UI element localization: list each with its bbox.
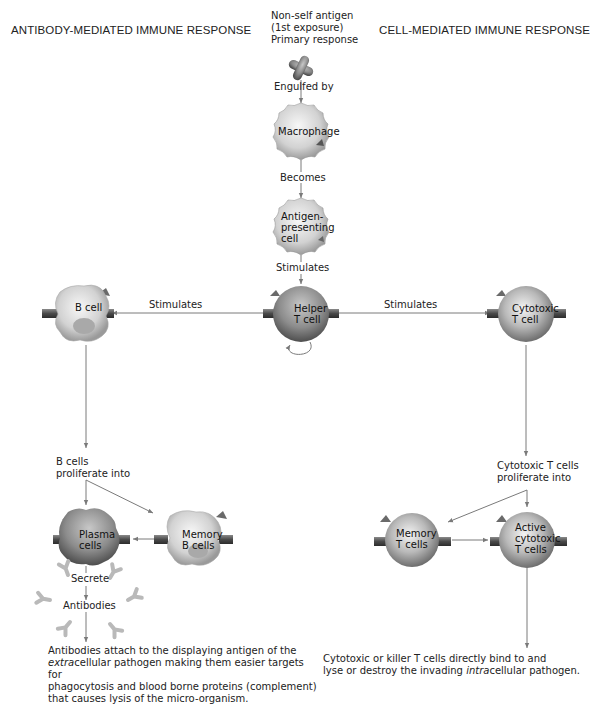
memory-t-label-line1: Memory [396, 528, 437, 539]
b-cell-icon [42, 285, 114, 341]
antibodies-label: Antibodies [63, 600, 116, 612]
cell-mediated-heading: CELL-MEDIATED IMMUNE RESPONSE [379, 24, 590, 36]
becomes-label: Becomes [280, 172, 326, 184]
t-proliferate-line1: Cytotoxic T cells [497, 460, 579, 472]
antigen-label-line2: (1st exposure) [271, 22, 358, 34]
stimulates-top-label: Stimulates [276, 262, 329, 274]
t-proliferate-line2: proliferate into [497, 472, 579, 484]
extra-italic: extra [48, 657, 74, 668]
stimulates-left-label: Stimulates [149, 299, 202, 311]
cell-outcome-line2: lyse or destroy the invading intracellul… [323, 665, 601, 677]
antigen-label-line3: Primary response [271, 34, 358, 46]
apc-label-line3: cell [281, 233, 334, 244]
active-label-line1: Active [515, 522, 560, 533]
engulfed-by-label: Engulfed by [274, 81, 334, 93]
plasma-cells-label: Plasma cells [79, 529, 115, 551]
t-cells-proliferate-label: Cytotoxic T cells proliferate into [497, 460, 579, 484]
antibody-outcome-line3: phagocytosis and blood borne proteins (c… [48, 681, 318, 693]
active-cytotoxic-t-cells-label: Active cytotoxic T cells [515, 522, 560, 555]
cytotoxic-label-line2: T cell [512, 314, 559, 325]
cell-outcome-line2-rest: cellular pathogen. [489, 665, 580, 676]
helper-label-line2: T cell [294, 314, 327, 325]
b-cells-proliferate-label: B cells proliferate into [56, 456, 130, 480]
cytotoxic-t-cell-label: Cytotoxic T cell [512, 303, 559, 325]
helper-t-cell-label: Helper T cell [294, 303, 327, 325]
secrete-label: Secrete [71, 573, 109, 585]
antibody-outcome-text: Antibodies attach to the displaying anti… [48, 645, 318, 705]
b-proliferate-line2: proliferate into [56, 468, 130, 480]
plasma-label-line1: Plasma [79, 529, 115, 540]
antibody-outcome-line4: that causes lysis of the micro-organism. [48, 693, 318, 705]
intra-italic: intra [466, 665, 489, 676]
plasma-label-line2: cells [79, 540, 115, 551]
memory-b-label-line1: Memory [182, 529, 223, 540]
active-label-line3: T cells [515, 544, 560, 555]
stimulates-right-label: Stimulates [384, 299, 437, 311]
antibody-outcome-line2: extracellular pathogen making them easie… [48, 657, 318, 681]
apc-label-line2: presenting [281, 222, 334, 233]
memory-t-label-line2: T cells [396, 539, 437, 550]
b-proliferate-line1: B cells [56, 456, 130, 468]
apc-label: Antigen- presenting cell [281, 211, 334, 244]
memory-t-cells-label: Memory T cells [396, 528, 437, 550]
memory-b-cells-label: Memory B cells [182, 529, 223, 551]
antigen-label-line1: Non-self antigen [271, 10, 358, 22]
antibody-outcome-line2-rest: cellular pathogen making them easier tar… [48, 657, 304, 680]
memory-b-label-line2: B cells [182, 540, 223, 551]
cytotoxic-label-line1: Cytotoxic [512, 303, 559, 314]
apc-label-line1: Antigen- [281, 211, 334, 222]
antigen-label: Non-self antigen (1st exposure) Primary … [271, 10, 358, 46]
cell-mediated-outcome-text: Cytotoxic or killer T cells directly bin… [323, 653, 601, 677]
cell-outcome-line2-pre: lyse or destroy the invading [323, 665, 466, 676]
active-label-line2: cytotoxic [515, 533, 560, 544]
antibody-mediated-heading: ANTIBODY-MEDIATED IMMUNE RESPONSE [11, 24, 251, 36]
antibody-outcome-line1: Antibodies attach to the displaying anti… [48, 645, 318, 657]
b-cell-label: B cell [75, 302, 102, 313]
macrophage-label: Macrophage [278, 126, 340, 137]
cell-outcome-line1: Cytotoxic or killer T cells directly bin… [323, 653, 601, 665]
helper-label-line1: Helper [294, 303, 327, 314]
